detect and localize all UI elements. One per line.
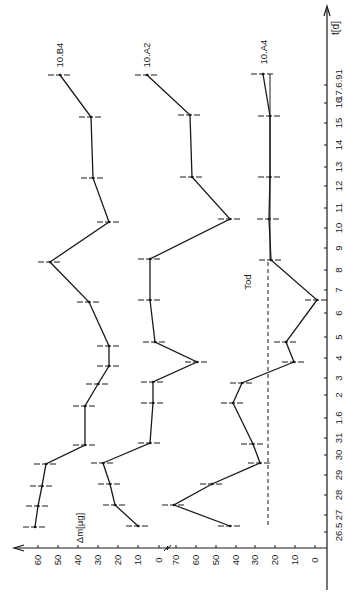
- data-point: [109, 483, 112, 486]
- time-tick-label: 15: [333, 118, 344, 129]
- data-point: [270, 259, 273, 262]
- data-point: [92, 177, 95, 180]
- data-point: [108, 345, 111, 348]
- time-tick-label: 31: [333, 433, 344, 444]
- data-point: [84, 444, 87, 447]
- time-tick-label: 26.5: [333, 523, 344, 542]
- data-point: [173, 504, 176, 507]
- data-point: [293, 361, 296, 364]
- chart-canvas: t[d]26.527282930311.62345678910111213141…: [0, 0, 360, 598]
- data-point: [152, 402, 155, 405]
- time-tick-label: 29: [333, 470, 344, 481]
- data-point: [108, 221, 111, 224]
- value-tick-label: 10: [132, 555, 143, 566]
- value-tick-label: 30: [249, 555, 260, 566]
- series-layer: [23, 73, 329, 529]
- value-tick-label: 50: [52, 555, 63, 566]
- annotation-tod: Tod: [242, 274, 253, 289]
- data-point: [149, 258, 152, 261]
- data-point: [252, 443, 255, 446]
- data-point: [97, 383, 100, 386]
- value-tick-label: 40: [230, 555, 241, 566]
- data-point: [269, 176, 272, 179]
- time-axis-label: t[d]: [330, 21, 341, 35]
- data-point: [262, 73, 265, 76]
- data-point: [37, 505, 40, 508]
- value-tick-label: 10: [289, 555, 300, 566]
- data-point: [232, 402, 235, 405]
- value-tick-label: 60: [32, 555, 43, 566]
- data-point: [154, 341, 157, 344]
- series-label: 10.A2: [141, 43, 152, 68]
- time-tick-label: 11: [333, 203, 344, 213]
- time-tick-label: 14: [333, 140, 344, 151]
- data-point: [102, 462, 105, 465]
- value-tick-label: 70: [170, 555, 181, 566]
- data-point: [149, 442, 152, 445]
- data-point: [285, 341, 288, 344]
- data-point: [241, 382, 244, 385]
- value-tick-label: 40: [72, 555, 83, 566]
- series-line: [174, 74, 317, 526]
- data-point: [146, 74, 149, 77]
- time-tick-label: 1.6: [333, 411, 344, 424]
- value-tick-label: 0: [153, 557, 164, 562]
- data-point: [189, 114, 192, 117]
- time-tick-label: 10: [333, 223, 344, 234]
- value-tick-label: 20: [112, 555, 123, 566]
- series-label: 10.B4: [54, 43, 65, 68]
- value-axis-label: Δm[µg]: [74, 513, 85, 543]
- time-tick-label: 6: [333, 310, 344, 315]
- series-10-b4: [23, 74, 121, 529]
- data-point: [149, 299, 152, 302]
- time-tick-label: 2: [333, 392, 344, 397]
- time-tick-label: 3: [333, 375, 344, 380]
- data-point: [34, 526, 37, 529]
- time-tick-label: 17.6.91: [333, 69, 344, 101]
- time-tick-label: 4: [333, 355, 344, 360]
- time-tick-label: 13: [333, 162, 344, 173]
- data-point: [191, 176, 194, 179]
- data-point: [196, 361, 199, 364]
- value-tick-label: 50: [210, 555, 221, 566]
- time-tick-label: 12: [333, 181, 344, 192]
- time-tick-label: 8: [333, 267, 344, 272]
- time-tick-label: 28: [333, 490, 344, 501]
- value-tick-label: 60: [190, 555, 201, 566]
- data-point: [88, 301, 91, 304]
- data-point: [211, 483, 214, 486]
- data-point: [108, 365, 111, 368]
- series-line: [35, 75, 109, 527]
- data-point: [259, 462, 262, 465]
- data-point: [41, 485, 44, 488]
- value-tick-label: 20: [269, 555, 280, 566]
- data-point: [90, 116, 93, 119]
- series-10-a2: [91, 74, 242, 528]
- value-tick-label: 30: [92, 555, 103, 566]
- value-tick-label: 0: [309, 557, 320, 562]
- data-point: [268, 218, 271, 221]
- data-point: [45, 463, 48, 466]
- time-tick-label: 7: [333, 287, 344, 292]
- data-point: [137, 525, 140, 528]
- data-point: [84, 405, 87, 408]
- time-tick-label: 9: [333, 245, 344, 250]
- data-point: [316, 299, 319, 302]
- time-tick-label: 30: [333, 450, 344, 461]
- series-label: 10.A4: [258, 40, 269, 65]
- labels-layer: Tod10.B410.A210.A4: [54, 40, 269, 290]
- data-point: [229, 218, 232, 221]
- time-tick-label: 5: [333, 334, 344, 339]
- data-point: [152, 381, 155, 384]
- time-tick-label: 27: [333, 510, 344, 521]
- data-point: [49, 261, 52, 264]
- series-line: [103, 75, 230, 526]
- series-10-a4: [162, 73, 329, 528]
- data-point: [229, 525, 232, 528]
- data-point: [114, 504, 117, 507]
- data-point: [269, 115, 272, 118]
- data-point: [59, 74, 62, 77]
